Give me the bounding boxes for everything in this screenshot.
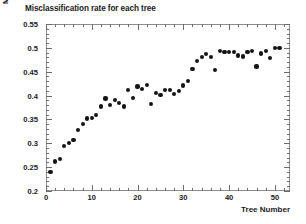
data-point — [76, 128, 80, 132]
x-axis-tick-label: 20 — [133, 193, 141, 202]
data-point — [145, 83, 149, 87]
data-point — [90, 116, 94, 120]
data-point — [58, 157, 62, 161]
y-axis-tick-label: 0.2 — [27, 187, 38, 196]
y-axis-tick-label: 0.55 — [23, 20, 38, 29]
data-point — [99, 104, 103, 108]
data-point — [158, 93, 162, 97]
y-axis-tick-right — [284, 191, 290, 192]
data-point — [200, 55, 204, 59]
data-point — [81, 122, 85, 126]
data-point — [135, 84, 139, 88]
data-point — [94, 113, 98, 117]
data-point — [264, 49, 268, 53]
x-axis-tick-label: 10 — [88, 193, 96, 202]
data-point — [195, 59, 199, 63]
x-axis-title: Tree Number — [241, 205, 290, 214]
data-point — [149, 102, 153, 106]
y-axis-tick-label: 0.45 — [23, 67, 38, 76]
data-point — [241, 54, 245, 58]
x-axis-tick-label: 0 — [44, 193, 48, 202]
y-axis-tick-label: 0.5 — [27, 43, 38, 52]
data-point — [259, 51, 263, 55]
x-axis-tick-label: 50 — [271, 193, 279, 202]
x-axis-tick-label: 40 — [225, 193, 233, 202]
chart-root: Misclassification rate for each tree Mis… — [0, 0, 306, 224]
data-point — [154, 91, 158, 95]
data-point — [268, 56, 272, 60]
data-point — [227, 50, 231, 54]
data-point — [126, 88, 130, 92]
data-point — [48, 170, 52, 174]
data-point — [209, 55, 213, 59]
y-axis-tick-label: 0.35 — [23, 115, 38, 124]
y-axis-tick — [46, 191, 52, 192]
data-point — [245, 50, 249, 54]
data-point — [62, 144, 66, 148]
data-point — [177, 89, 181, 93]
data-point — [163, 88, 167, 92]
data-point — [186, 79, 190, 83]
data-point — [117, 101, 121, 105]
data-point — [103, 96, 107, 100]
data-point — [204, 52, 208, 56]
data-point — [273, 46, 277, 50]
data-point — [254, 64, 258, 68]
data-point — [122, 104, 126, 108]
y-axis-title: Misclassification rate — [0, 0, 12, 48]
data-point — [250, 49, 254, 53]
scatter-plot-area — [46, 24, 290, 191]
data-point — [131, 96, 135, 100]
y-axis-tick-label: 0.4 — [27, 91, 38, 100]
x-axis-tick-label: 30 — [179, 193, 187, 202]
data-point — [232, 50, 236, 54]
chart-title: Misclassification rate for each tree — [25, 4, 156, 13]
data-point — [218, 49, 222, 53]
data-point — [277, 46, 281, 50]
data-point — [67, 141, 71, 145]
data-point — [236, 53, 240, 57]
data-point — [113, 98, 117, 102]
data-point — [222, 50, 226, 54]
data-point — [53, 159, 57, 163]
data-point — [181, 83, 185, 87]
data-point — [190, 67, 194, 71]
data-point — [168, 88, 172, 92]
y-axis-tick-label: 0.3 — [27, 139, 38, 148]
data-point — [213, 68, 217, 72]
data-point — [140, 87, 144, 91]
data-point — [71, 138, 75, 142]
y-axis-tick-label: 0.25 — [23, 163, 38, 172]
data-point — [108, 103, 112, 107]
data-point — [85, 116, 89, 120]
data-point — [172, 92, 176, 96]
